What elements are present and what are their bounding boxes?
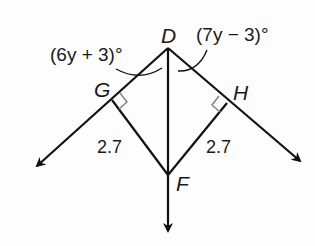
angle-label-right: (7y − 3)° bbox=[196, 24, 269, 46]
right-angle-mark-g bbox=[119, 93, 127, 109]
length-label-hf: 2.7 bbox=[206, 137, 231, 158]
point-label-d: D bbox=[161, 24, 176, 48]
point-label-g: G bbox=[94, 78, 110, 102]
right-angle-mark-h bbox=[212, 96, 220, 112]
point-label-f: F bbox=[176, 172, 189, 196]
point-label-h: H bbox=[233, 81, 248, 105]
length-label-gf: 2.7 bbox=[97, 137, 122, 158]
diagram-canvas: D G H F (6y + 3)° (7y − 3)° 2.7 2.7 bbox=[0, 0, 315, 246]
angle-label-left: (6y + 3)° bbox=[50, 44, 123, 66]
